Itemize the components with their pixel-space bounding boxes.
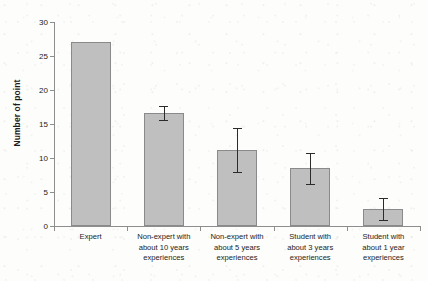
errorbar-stem (237, 128, 238, 172)
x-axis-category-label-line: Expert (54, 232, 127, 243)
x-axis-category-label-line: Non-expert with (127, 232, 200, 243)
x-axis-category-label-line: Student with (347, 232, 420, 243)
y-axis-tick-mark (50, 124, 54, 125)
errorbar-stem (310, 153, 311, 184)
errorbar-cap-lower (233, 172, 242, 173)
plot-area: 051015202530 (54, 22, 420, 226)
x-axis-category-label-line: about 3 years (274, 243, 347, 254)
x-axis-category-label: Non-expert withabout 10 yearsexperiences (127, 232, 200, 264)
y-axis-title: Number of point (12, 58, 22, 168)
x-axis-tick-mark (200, 226, 201, 231)
x-axis-category-label-line: experiences (200, 253, 273, 264)
errorbar-stem (164, 106, 165, 120)
x-axis-category-label-line: about 5 years (200, 243, 273, 254)
errorbar-stem (383, 198, 384, 220)
y-axis-tick-mark (50, 90, 54, 91)
bar (71, 42, 111, 226)
x-axis-category-label-line: about 1 year (347, 243, 420, 254)
y-axis-tick-label: 0 (44, 222, 48, 231)
y-axis-line (54, 22, 55, 227)
x-axis-tick-mark (347, 226, 348, 231)
errorbar-cap-upper (379, 198, 388, 199)
y-axis-tick-label: 10 (39, 154, 48, 163)
x-axis-category-label-line: Student with (274, 232, 347, 243)
y-axis-tick-label: 20 (39, 86, 48, 95)
y-axis-tick-label: 15 (39, 120, 48, 129)
errorbar-cap-upper (159, 106, 168, 107)
errorbar-cap-lower (159, 120, 168, 121)
y-axis-tick-mark (50, 56, 54, 57)
x-axis-tick-mark (420, 226, 421, 231)
errorbar-cap-lower (379, 220, 388, 221)
x-axis-category-label-line: experiences (274, 253, 347, 264)
y-axis-tick-label: 25 (39, 52, 48, 61)
x-axis-category-label-line: experiences (127, 253, 200, 264)
x-axis-category-label: Expert (54, 232, 127, 243)
x-axis-category-label: Student withabout 3 yearsexperiences (274, 232, 347, 264)
errorbar-cap-lower (306, 184, 315, 185)
x-axis-category-label-line: experiences (347, 253, 420, 264)
x-axis-category-label: Student withabout 1 yearexperiences (347, 232, 420, 264)
y-axis-tick-mark (50, 22, 54, 23)
y-axis-tick-mark (50, 158, 54, 159)
x-axis-tick-mark (274, 226, 275, 231)
bar (144, 113, 184, 226)
x-axis-category-label: Non-expert withabout 5 yearsexperiences (200, 232, 273, 264)
x-axis-tick-mark (54, 226, 55, 231)
y-axis-tick-mark (50, 192, 54, 193)
errorbar-cap-upper (306, 153, 315, 154)
y-axis-tick-label: 30 (39, 18, 48, 27)
x-axis-tick-mark (127, 226, 128, 231)
x-axis-category-label-line: Non-expert with (200, 232, 273, 243)
x-axis-category-label-line: about 10 years (127, 243, 200, 254)
x-axis-line (54, 226, 420, 227)
bar-chart-figure: Number of point 051015202530 ExpertNon-e… (0, 0, 428, 281)
y-axis-tick-label: 5 (44, 188, 48, 197)
errorbar-cap-upper (233, 128, 242, 129)
